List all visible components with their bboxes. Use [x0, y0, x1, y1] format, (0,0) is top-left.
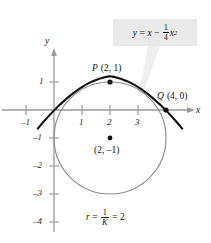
point-P-coords: (2, 1) — [101, 63, 122, 73]
x-tick-label-1: 1 — [79, 118, 84, 127]
point-Q-letter: Q — [157, 91, 164, 101]
y-tick-label--2: –2 — [33, 161, 42, 170]
radius-annotation: r = 1 K = 2 — [86, 206, 125, 227]
radius-symbol: r — [86, 212, 90, 222]
circle-center-label: (2, –1) — [94, 146, 119, 156]
circle-center-dot — [108, 136, 113, 141]
curvature-figure: y = x − 1 4 x2 — [0, 0, 211, 243]
radius-value: 2 — [120, 212, 125, 222]
radius-fraction: 1 K — [101, 208, 109, 227]
point-Q-coords: (4, 0) — [167, 91, 188, 101]
radius-equals-2: = — [112, 212, 117, 222]
point-P-letter: P — [92, 63, 98, 73]
y-tick-label--3: –3 — [33, 189, 42, 198]
x-axis-arrowhead — [187, 107, 195, 113]
y-axis-label: y — [45, 37, 49, 47]
point-Q-label: Q(4, 0) — [157, 92, 187, 102]
radius-equals-1: = — [92, 212, 97, 222]
x-tick-label--1: –1 — [21, 118, 30, 127]
point-P-label: P(2, 1) — [92, 64, 121, 74]
point-Q-dot — [163, 107, 168, 112]
y-tick-label--1: –1 — [33, 133, 42, 142]
y-tick-label--4: –4 — [33, 217, 42, 226]
x-tick-label-2: 2 — [107, 118, 112, 127]
radius-fraction-denominator: K — [101, 217, 109, 227]
y-tick-label-1: 1 — [39, 77, 44, 86]
point-P-dot — [107, 79, 112, 84]
y-axis-arrowhead — [51, 48, 57, 56]
x-tick-label-3: 3 — [135, 118, 140, 127]
radius-fraction-numerator: 1 — [102, 208, 108, 217]
x-axis-label: x — [196, 106, 200, 116]
